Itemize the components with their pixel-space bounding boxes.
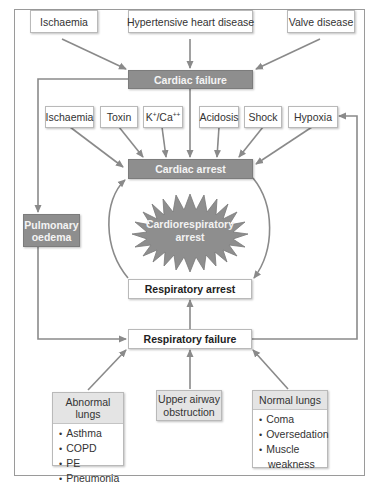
abnormal-lungs-header: Abnormal lungs [53, 393, 123, 424]
box-label-line2: obstruction [163, 406, 214, 419]
list-item: Coma [259, 412, 327, 427]
cause-hypoxia: Hypoxia [288, 106, 338, 128]
cause-hypertensive-heart-disease: Hypertensive heart disease [128, 10, 253, 33]
node-label: Cardiac failure [154, 74, 227, 86]
cardiac-failure-node: Cardiac failure [128, 70, 253, 89]
normal-lungs-box: Normal lungs Coma Oversedation Muscle we… [252, 390, 328, 468]
list-item: Muscle [259, 442, 327, 457]
cause-label: Hypertensive heart disease [127, 16, 254, 28]
list-item-continuation: weakness [259, 457, 327, 472]
cause-label: Valve disease [289, 16, 354, 28]
cardiac-arrest-node: Cardiac arrest [128, 159, 253, 179]
node-label: Cardiac arrest [155, 163, 226, 175]
cause-valve-disease: Valve disease [287, 10, 355, 33]
cause-ischaemia: Ischaemia [45, 106, 94, 128]
list-item: Asthma [59, 426, 123, 441]
cause-label: Acidosis [199, 111, 238, 123]
normal-lungs-header: Normal lungs [253, 391, 327, 410]
cardiorespiratory-arrest-label: Cardiorespiratory arrest [140, 218, 240, 244]
list-item: PE [59, 456, 123, 471]
abnormal-lungs-box: Abnormal lungs Asthma COPD PE Pneumonia [52, 392, 124, 466]
cause-acidosis: Acidosis [199, 106, 239, 128]
pulmonary-oedema-node: Pulmonary oedema [23, 214, 80, 247]
cause-label: K+/Ca++ [146, 111, 181, 123]
node-label-line1: Pulmonary [24, 219, 78, 231]
respiratory-failure-node: Respiratory failure [128, 329, 252, 349]
burst-label-line2: arrest [140, 231, 240, 244]
list-item: COPD [59, 441, 123, 456]
burst-label-line1: Cardiorespiratory [140, 218, 240, 231]
cause-toxin: Toxin [100, 106, 138, 128]
upper-airway-obstruction-box: Upper airway obstruction [156, 390, 222, 421]
normal-lungs-list: Coma Oversedation Muscle weakness [253, 410, 327, 474]
list-item: Pneumonia [59, 471, 123, 486]
cause-shock: Shock [244, 106, 282, 128]
list-item: Oversedation [259, 427, 327, 442]
node-label: Respiratory arrest [145, 283, 235, 295]
cause-label: Shock [248, 111, 277, 123]
box-label-line1: Upper airway [158, 393, 220, 406]
respiratory-arrest-node: Respiratory arrest [128, 279, 252, 299]
abnormal-lungs-list: Asthma COPD PE Pneumonia [53, 424, 123, 488]
cause-label: Toxin [107, 111, 132, 123]
cause-potassium-calcium: K+/Ca++ [143, 106, 183, 128]
cause-ischaemia-top: Ischaemia [30, 10, 98, 33]
cause-label: Hypoxia [294, 111, 332, 123]
node-label-line2: oedema [32, 231, 72, 243]
cause-label: Ischaemia [40, 16, 88, 28]
node-label: Respiratory failure [144, 333, 237, 345]
cause-label: Ischaemia [46, 111, 94, 123]
